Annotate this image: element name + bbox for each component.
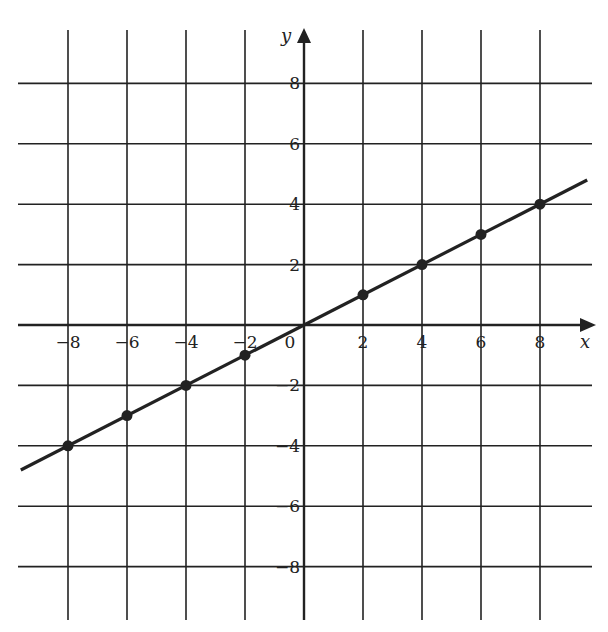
data-point xyxy=(122,410,133,421)
x-tick-label: 6 xyxy=(476,332,487,352)
data-point xyxy=(535,199,546,210)
data-point xyxy=(63,440,74,451)
x-tick-label: 8 xyxy=(535,332,546,352)
x-tick-label: 2 xyxy=(358,332,369,352)
y-tick-label: 2 xyxy=(289,255,300,275)
x-tick-label: −8 xyxy=(55,332,80,352)
data-point xyxy=(417,259,428,270)
y-tick-label: 8 xyxy=(289,73,300,93)
y-tick-label: 4 xyxy=(289,194,300,214)
coordinate-plane-chart: −8−6−4−2024688642−2−4−6−8 x y xyxy=(0,0,608,632)
data-point xyxy=(358,289,369,300)
x-tick-label: 4 xyxy=(417,332,428,352)
y-axis-arrow-icon xyxy=(297,28,311,43)
data-point xyxy=(181,380,192,391)
data-point xyxy=(476,229,487,240)
data-point xyxy=(240,350,251,361)
x-axis-arrow-icon xyxy=(580,318,596,332)
x-axis-label: x xyxy=(580,331,590,352)
y-tick-label: −2 xyxy=(275,375,300,395)
y-tick-label: −4 xyxy=(275,436,300,456)
y-tick-label: 6 xyxy=(289,134,300,154)
y-tick-label: −8 xyxy=(275,557,300,577)
x-tick-label: −4 xyxy=(173,332,198,352)
x-tick-label: −6 xyxy=(114,332,139,352)
y-axis-label: y xyxy=(280,25,292,46)
y-tick-label: −6 xyxy=(275,496,300,516)
